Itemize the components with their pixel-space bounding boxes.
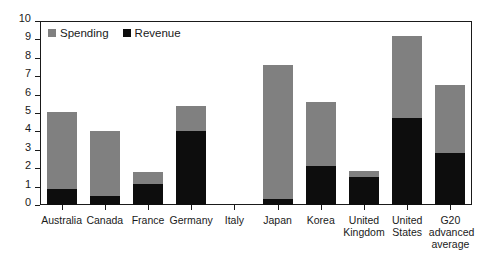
y-axis-tick-label: 5 xyxy=(25,105,31,116)
y-axis-tick-label: 2 xyxy=(25,160,31,171)
x-axis-tick-mark xyxy=(148,205,149,210)
y-axis: 109876543210 xyxy=(0,21,40,205)
x-axis-tick-mark xyxy=(234,205,235,210)
bar-segment-revenue xyxy=(90,196,120,205)
legend-item-revenue: Revenue xyxy=(123,27,181,39)
x-axis-label: United Kingdom xyxy=(342,214,385,238)
bar-segment-revenue xyxy=(349,177,379,205)
bar-group xyxy=(306,21,336,205)
x-axis-label: G20 advanced average xyxy=(429,214,472,250)
y-axis-tick-label: 1 xyxy=(25,179,31,190)
y-axis-tick-label: 10 xyxy=(19,13,31,24)
bar-stack xyxy=(176,106,206,205)
black-square-icon xyxy=(123,29,131,37)
bar-segment-revenue xyxy=(392,118,422,205)
y-axis-tick-label: 7 xyxy=(25,68,31,79)
x-axis-tick-mark xyxy=(364,205,365,210)
bar-stack xyxy=(349,171,379,205)
x-axis-tick-mark xyxy=(407,205,408,210)
bar-segment-revenue xyxy=(133,184,163,205)
legend-label: Revenue xyxy=(135,27,181,39)
x-axis-label: Australia xyxy=(40,214,83,226)
bar-group xyxy=(219,21,249,205)
x-axis-label: Italy xyxy=(213,214,256,226)
bar-segment-spending xyxy=(90,131,120,195)
y-axis-tick-label: 0 xyxy=(25,197,31,208)
x-axis-label: United States xyxy=(386,214,429,238)
y-axis-tick-label: 6 xyxy=(25,87,31,98)
bar-segment-spending xyxy=(435,85,465,152)
bar-segment-spending xyxy=(306,102,336,166)
bar-stack xyxy=(47,112,77,205)
chart-legend: SpendingRevenue xyxy=(48,27,181,39)
bar-segment-spending xyxy=(133,172,163,184)
x-axis-label: Korea xyxy=(299,214,342,226)
bar-segment-revenue xyxy=(435,153,465,205)
y-axis-tick-label: 9 xyxy=(25,31,31,42)
x-axis-label: Germany xyxy=(170,214,213,226)
gray-square-icon xyxy=(48,29,56,37)
bar-stack xyxy=(263,65,293,205)
bar-group xyxy=(349,21,379,205)
bar-segment-spending xyxy=(392,36,422,118)
bars-layer xyxy=(40,21,472,205)
bar-group xyxy=(176,21,206,205)
x-axis-tick-mark xyxy=(450,205,451,210)
x-axis-tick-mark xyxy=(62,205,63,210)
x-axis: AustraliaCanadaFranceGermanyItalyJapanKo… xyxy=(40,205,472,261)
bar-segment-spending xyxy=(263,65,293,199)
x-axis-label: Canada xyxy=(83,214,126,226)
bar-group xyxy=(392,21,422,205)
legend-label: Spending xyxy=(60,27,109,39)
stacked-bar-chart: 109876543210 AustraliaCanadaFranceGerman… xyxy=(0,0,491,261)
bar-segment-revenue xyxy=(176,131,206,205)
y-axis-tick-label: 8 xyxy=(25,50,31,61)
bar-group xyxy=(133,21,163,205)
x-axis-label: France xyxy=(126,214,169,226)
x-axis-tick-mark xyxy=(321,205,322,210)
bar-group xyxy=(263,21,293,205)
x-axis-tick-mark xyxy=(278,205,279,210)
bar-segment-spending xyxy=(176,106,206,132)
x-axis-label: Japan xyxy=(256,214,299,226)
bar-segment-revenue xyxy=(47,189,77,205)
bar-segment-revenue xyxy=(306,166,336,205)
bar-stack xyxy=(392,36,422,205)
y-axis-tick-label: 4 xyxy=(25,123,31,134)
x-axis-tick-mark xyxy=(191,205,192,210)
bar-group xyxy=(47,21,77,205)
legend-item-spending: Spending xyxy=(48,27,109,39)
bar-segment-spending xyxy=(47,112,77,189)
bar-group xyxy=(435,21,465,205)
bar-group xyxy=(90,21,120,205)
bar-stack xyxy=(133,172,163,205)
x-axis-tick-mark xyxy=(105,205,106,210)
y-axis-tick-label: 3 xyxy=(25,142,31,153)
bar-stack xyxy=(306,102,336,205)
bar-stack xyxy=(90,131,120,205)
bar-stack xyxy=(435,85,465,205)
